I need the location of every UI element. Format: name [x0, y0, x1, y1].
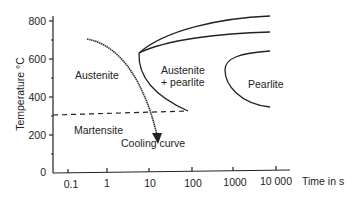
x-tick-10000: 10 000: [260, 175, 292, 187]
pearlite-finish-curve: [139, 32, 270, 53]
label-austenite: Austenite: [75, 69, 119, 81]
label-pearlite: Pearlite: [248, 78, 284, 90]
y-tick-400: 400: [28, 91, 46, 103]
x-tick-0-1: 0.1: [64, 178, 79, 190]
x-tick-1000: 1000: [223, 176, 247, 188]
x-tick-labels: 0.1 1 10 100 1000 10 000: [64, 175, 293, 190]
y-axis-label: Temperature °C: [14, 57, 26, 131]
y-tick-labels: 800 600 400 200 0: [28, 15, 46, 178]
label-cooling-curve: Cooling curve: [121, 137, 185, 149]
x-tick-10: 10: [144, 177, 156, 189]
martensite-start-line: [53, 111, 188, 115]
y-tick-800: 800: [28, 15, 46, 27]
x-axis: [53, 170, 290, 173]
x-axis-label: Time in s: [302, 175, 344, 187]
label-austenite-pearlite-1: Austenite: [161, 64, 205, 76]
ttt-diagram: 800 600 400 200 0 0.1 1 10 100 1000 10 0…: [0, 0, 353, 197]
y-tick-0: 0: [40, 166, 46, 178]
y-tick-600: 600: [28, 53, 46, 65]
x-tick-100: 100: [184, 177, 202, 189]
label-martensite: Martensite: [74, 124, 123, 136]
label-austenite-pearlite-2: + pearlite: [161, 76, 205, 88]
y-tick-200: 200: [28, 129, 46, 141]
axes: [49, 16, 290, 173]
x-tick-1: 1: [104, 177, 110, 189]
pearlite-start-upper-curve: [139, 16, 270, 53]
